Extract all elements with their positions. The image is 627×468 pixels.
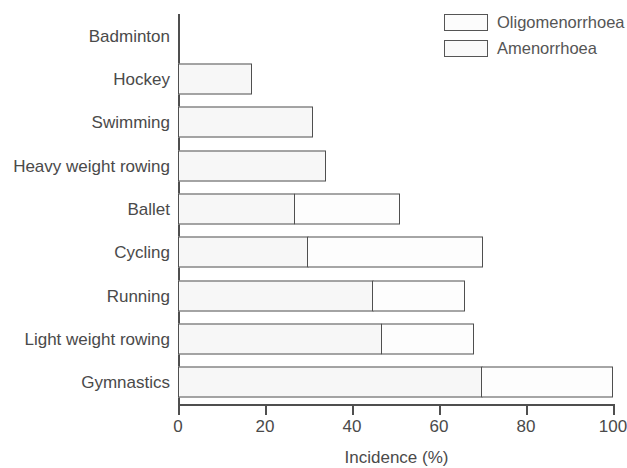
category-label-running: Running: [107, 287, 170, 304]
bar-segment-oligomenorrhoea[interactable]: [381, 323, 474, 354]
bar-row: Ballet: [178, 187, 613, 230]
bar-segment-oligomenorrhoea[interactable]: [307, 237, 483, 268]
bar-segment-amenorrhoea[interactable]: [178, 323, 382, 354]
bar-row: Running: [178, 274, 613, 317]
stacked-bar[interactable]: [178, 367, 613, 398]
x-axis-tick-label: 40: [343, 417, 362, 437]
stacked-bar[interactable]: [178, 323, 474, 354]
x-axis-tick-label: 80: [517, 417, 536, 437]
bar-segment-amenorrhoea[interactable]: [178, 107, 313, 138]
bar-segment-oligomenorrhoea[interactable]: [294, 193, 400, 224]
bar-segment-oligomenorrhoea[interactable]: [481, 367, 613, 398]
category-label-heavy-weight-rowing: Heavy weight rowing: [13, 157, 170, 174]
bar-row: Light weight rowing: [178, 317, 613, 360]
x-axis-tick: [526, 406, 528, 415]
x-axis-tick-label: 20: [256, 417, 275, 437]
bar-row: Hockey: [178, 57, 613, 100]
x-axis-tick: [439, 406, 441, 415]
stacked-bar[interactable]: [178, 280, 465, 311]
x-axis-line: [178, 404, 615, 406]
x-axis-tick: [265, 406, 267, 415]
category-label-hockey: Hockey: [113, 70, 170, 87]
x-axis-title: Incidence (%): [178, 448, 615, 468]
bar-row: Gymnastics: [178, 361, 613, 404]
x-axis-tick: [613, 406, 615, 415]
bar-segment-amenorrhoea[interactable]: [178, 367, 483, 398]
stacked-bar[interactable]: [178, 150, 326, 181]
x-axis-tick-label: 60: [430, 417, 449, 437]
bar-row: Badminton: [178, 14, 613, 57]
bar-segment-amenorrhoea[interactable]: [178, 193, 295, 224]
x-axis-tick: [178, 406, 180, 415]
bar-segment-amenorrhoea[interactable]: [178, 63, 252, 94]
bar-segment-oligomenorrhoea[interactable]: [372, 280, 465, 311]
category-label-gymnastics: Gymnastics: [81, 374, 170, 391]
bar-row: Cycling: [178, 231, 613, 274]
category-label-light-weight-rowing: Light weight rowing: [24, 330, 170, 347]
stacked-bar[interactable]: [178, 63, 252, 94]
category-label-badminton: Badminton: [89, 27, 170, 44]
x-axis-tick: [352, 406, 354, 415]
bar-segment-amenorrhoea[interactable]: [178, 237, 309, 268]
bar-segment-amenorrhoea[interactable]: [178, 280, 374, 311]
category-label-ballet: Ballet: [127, 200, 170, 217]
bar-segment-amenorrhoea[interactable]: [178, 150, 326, 181]
stacked-bar[interactable]: [178, 193, 400, 224]
bar-row: Heavy weight rowing: [178, 144, 613, 187]
plot-area: BadmintonHockeySwimmingHeavy weight rowi…: [178, 14, 613, 404]
bar-row: Swimming: [178, 101, 613, 144]
x-axis-tick-label: 100: [599, 417, 627, 437]
x-axis-tick-label: 0: [173, 417, 182, 437]
stacked-bar[interactable]: [178, 237, 483, 268]
category-label-cycling: Cycling: [114, 244, 170, 261]
stacked-bar[interactable]: [178, 107, 313, 138]
category-label-swimming: Swimming: [92, 114, 170, 131]
